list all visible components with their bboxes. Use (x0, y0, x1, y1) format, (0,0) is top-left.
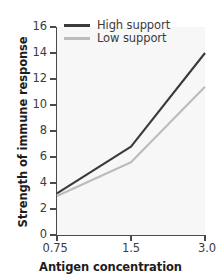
y-tick-mark (50, 156, 56, 157)
legend-item-low-support: Low support (64, 32, 170, 45)
y-tick-mark (50, 26, 56, 27)
x-axis-title: Antigen concentration (0, 260, 221, 274)
y-tick-mark (50, 52, 56, 53)
y-tick-mark (50, 208, 56, 209)
line-chart-figure: 0246810121416 0.751.53.0 High support Lo… (0, 0, 221, 280)
y-tick-mark (50, 78, 56, 79)
legend-swatch-high-support (64, 24, 90, 27)
legend-swatch-low-support (64, 37, 90, 40)
y-tick-mark (50, 182, 56, 183)
y-axis-line (56, 27, 57, 236)
y-tick-mark (50, 104, 56, 105)
legend-label-high-support: High support (97, 20, 170, 32)
plot-area (57, 27, 205, 235)
x-tick-label: 0.75 (43, 243, 68, 255)
y-tick-mark (50, 234, 56, 235)
x-tick-label: 3.0 (198, 243, 216, 255)
y-tick-mark (50, 130, 56, 131)
y-axis-title: Strength of immune response (16, 27, 30, 237)
legend-label-low-support: Low support (97, 33, 166, 45)
legend: High support Low support (64, 19, 170, 45)
x-tick-label: 1.5 (122, 243, 140, 255)
